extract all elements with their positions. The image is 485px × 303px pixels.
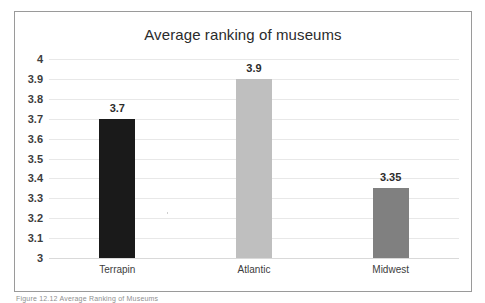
x-axis-label-midwest: Midwest bbox=[372, 264, 409, 275]
y-axis-tick-label: 3 bbox=[37, 252, 43, 264]
figure-container: Average ranking of museums 43.93.83.73.6… bbox=[0, 0, 485, 303]
bar-slot: 3.35 bbox=[322, 59, 459, 258]
y-axis-tick-label: 3.8 bbox=[28, 93, 43, 105]
y-axis-tick-label: 3.7 bbox=[28, 113, 43, 125]
bar-value-label: 3.35 bbox=[380, 171, 401, 183]
y-axis-tick-label: 3.2 bbox=[28, 212, 43, 224]
bar-slot: 3.7 bbox=[49, 59, 186, 258]
y-axis-tick-label: 3.4 bbox=[28, 172, 43, 184]
x-axis-label-atlantic: Atlantic bbox=[238, 264, 271, 275]
plot-area: 43.93.83.73.63.53.43.33.23.13 3.73.93.35 bbox=[49, 59, 459, 258]
y-axis-tick-label: 3.1 bbox=[28, 232, 43, 244]
scan-speck bbox=[167, 212, 168, 214]
bar-value-label: 3.9 bbox=[246, 62, 261, 74]
bar-value-label: 3.7 bbox=[110, 102, 125, 114]
gridline bbox=[49, 258, 459, 259]
y-axis-tick-label: 3.9 bbox=[28, 73, 43, 85]
bar-terrapin[interactable] bbox=[99, 119, 135, 258]
bar-series: 3.73.93.35 bbox=[49, 59, 459, 258]
y-axis-tick-label: 4 bbox=[37, 53, 43, 65]
y-axis-tick-label: 3.6 bbox=[28, 133, 43, 145]
chart-frame: Average ranking of museums 43.93.83.73.6… bbox=[14, 11, 472, 292]
x-axis-category-labels: TerrapinAtlanticMidwest bbox=[49, 264, 459, 284]
bar-midwest[interactable] bbox=[373, 188, 409, 258]
y-axis-tick-label: 3.3 bbox=[28, 192, 43, 204]
bar-atlantic[interactable] bbox=[236, 79, 272, 258]
y-axis-tick-label: 3.5 bbox=[28, 153, 43, 165]
x-axis-label-terrapin: Terrapin bbox=[99, 264, 135, 275]
bar-slot: 3.9 bbox=[186, 59, 323, 258]
figure-caption: Figure 12.12 Average Ranking of Museums bbox=[16, 295, 158, 302]
chart-title: Average ranking of museums bbox=[15, 26, 471, 43]
